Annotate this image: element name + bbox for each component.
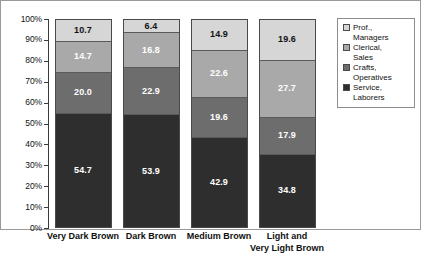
legend-swatch-icon — [343, 24, 350, 31]
bar-segment-value: 14.9 — [210, 30, 228, 39]
bar-segment[interactable]: 22.6 — [192, 51, 247, 98]
bar-segment[interactable]: 34.8 — [260, 155, 315, 227]
stacked-bar[interactable]: 14.922.619.642.9 — [191, 19, 248, 228]
y-axis-tick — [44, 144, 49, 145]
bar-segment-value: 42.9 — [210, 178, 228, 187]
y-axis-tick — [44, 19, 49, 20]
legend-swatch-icon — [343, 84, 350, 91]
legend-item[interactable]: Service, Laborers — [343, 83, 410, 102]
bar-segment[interactable]: 22.9 — [124, 68, 179, 115]
y-axis-tick-label: 0% — [2, 224, 42, 233]
legend-swatch-icon — [343, 44, 350, 51]
bar-segment-value: 10.7 — [74, 26, 92, 35]
bar-segment-value: 54.7 — [74, 166, 92, 175]
bar-segment[interactable]: 10.7 — [56, 20, 111, 42]
chart-figure: 100%90%80%70%60%50%40%30%20%10%0% 10.714… — [0, 0, 422, 261]
legend-swatch-icon — [343, 64, 350, 71]
bar-group: 19.627.717.934.8 — [253, 19, 321, 228]
y-axis-tick-label: 60% — [2, 98, 42, 107]
legend-item[interactable]: Prof., Managers — [343, 23, 410, 42]
y-axis-tick — [44, 40, 49, 41]
bar-segment-value: 22.6 — [210, 69, 228, 78]
bar-group: 6.416.822.953.9 — [117, 19, 185, 228]
bar-segment-value: 20.0 — [74, 88, 92, 97]
bar-segment-value: 53.9 — [142, 167, 160, 176]
bar-segment[interactable]: 20.0 — [56, 73, 111, 114]
bar-segment[interactable]: 19.6 — [260, 20, 315, 61]
legend-label: Crafts, Operatives — [353, 63, 392, 82]
y-axis-tick — [44, 186, 49, 187]
bar-segment-value: 16.8 — [142, 46, 160, 55]
y-axis-tick-label: 10% — [2, 203, 42, 212]
y-axis-tick — [44, 228, 49, 229]
y-axis-tick — [44, 124, 49, 125]
y-axis-tick-label: 40% — [2, 140, 42, 149]
y-axis-tick — [44, 207, 49, 208]
legend-item[interactable]: Crafts, Operatives — [343, 63, 410, 82]
bar-segment[interactable]: 19.6 — [192, 98, 247, 139]
legend-label: Service, Laborers — [353, 83, 385, 102]
y-axis-tick-label: 20% — [2, 182, 42, 191]
x-axis-labels: Very Dark BrownDark BrownMedium BrownLig… — [49, 231, 321, 261]
bar-group: 10.714.720.054.7 — [49, 19, 117, 228]
y-axis-tick — [44, 61, 49, 62]
y-axis-tick-label: 80% — [2, 56, 42, 65]
legend-label: Prof., Managers — [353, 23, 389, 42]
y-axis-tick-label: 90% — [2, 35, 42, 44]
bar-segment[interactable]: 54.7 — [56, 114, 111, 227]
bar-segment-value: 14.7 — [74, 52, 92, 61]
bar-segment[interactable]: 27.7 — [260, 61, 315, 118]
bar-segment[interactable]: 42.9 — [192, 138, 247, 227]
y-axis-tick-label: 30% — [2, 161, 42, 170]
bar-segment-value: 27.7 — [278, 84, 296, 93]
legend-item[interactable]: Clerical, Sales — [343, 43, 410, 62]
bar-segment-value: 34.8 — [278, 186, 296, 195]
bar-segment-value: 6.4 — [145, 22, 158, 31]
plot-area: 10.714.720.054.76.416.822.953.914.922.61… — [49, 19, 321, 228]
stacked-bar[interactable]: 19.627.717.934.8 — [259, 19, 316, 228]
bar-segment[interactable]: 14.7 — [56, 42, 111, 72]
bar-segment[interactable]: 53.9 — [124, 115, 179, 227]
y-axis-tick-label: 100% — [2, 15, 42, 24]
y-axis-tick — [44, 103, 49, 104]
bar-group: 14.922.619.642.9 — [185, 19, 253, 228]
bar-segment[interactable]: 17.9 — [260, 118, 315, 155]
chart-legend: Prof., ManagersClerical, SalesCrafts, Op… — [337, 18, 415, 108]
y-axis-labels: 100%90%80%70%60%50%40%30%20%10%0% — [0, 0, 42, 261]
bar-segment[interactable]: 16.8 — [124, 33, 179, 68]
y-axis-tick-label: 50% — [2, 119, 42, 128]
bar-segment[interactable]: 6.4 — [124, 20, 179, 33]
y-axis-tick — [44, 82, 49, 83]
x-axis-category-label: Light and Very Light Brown — [245, 231, 329, 254]
y-axis-tick — [44, 165, 49, 166]
stacked-bar[interactable]: 6.416.822.953.9 — [123, 19, 180, 228]
legend-label: Clerical, Sales — [353, 43, 382, 62]
bar-segment[interactable]: 14.9 — [192, 20, 247, 51]
bar-segment-value: 22.9 — [142, 87, 160, 96]
bar-segment-value: 19.6 — [278, 35, 296, 44]
bar-segment-value: 17.9 — [278, 131, 296, 140]
stacked-bar[interactable]: 10.714.720.054.7 — [55, 19, 112, 228]
y-axis-tick-label: 70% — [2, 77, 42, 86]
bar-segment-value: 19.6 — [210, 113, 228, 122]
